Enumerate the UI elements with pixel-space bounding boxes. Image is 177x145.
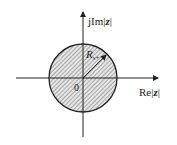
z-plane-diagram: jIm|z| Re|z| 0 Rx+ — [0, 0, 177, 145]
imag-axis-label: jIm|z| — [87, 15, 112, 27]
origin-label: 0 — [74, 82, 79, 93]
real-axis-label: Re|z| — [139, 86, 160, 98]
